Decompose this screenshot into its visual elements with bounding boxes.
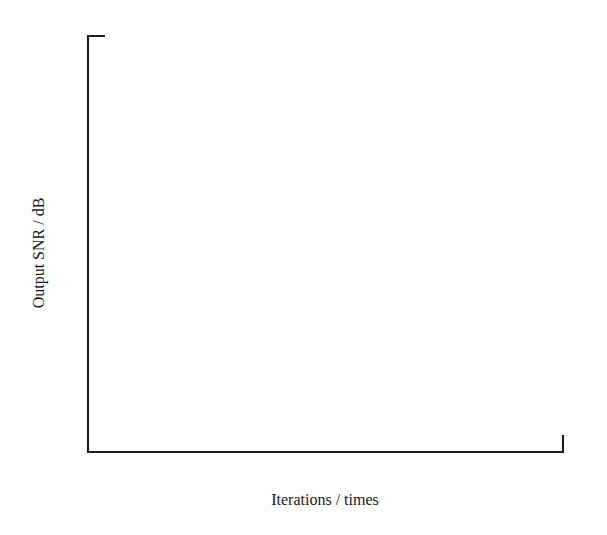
axis-spines bbox=[88, 36, 563, 452]
chart-canvas: Iterations / times Output SNR / dB bbox=[0, 0, 607, 535]
chart-figure: Iterations / times Output SNR / dB bbox=[0, 0, 607, 535]
x-axis-title: Iterations / times bbox=[271, 491, 379, 508]
y-axis-title: Output SNR / dB bbox=[30, 198, 48, 309]
axes bbox=[88, 36, 563, 452]
